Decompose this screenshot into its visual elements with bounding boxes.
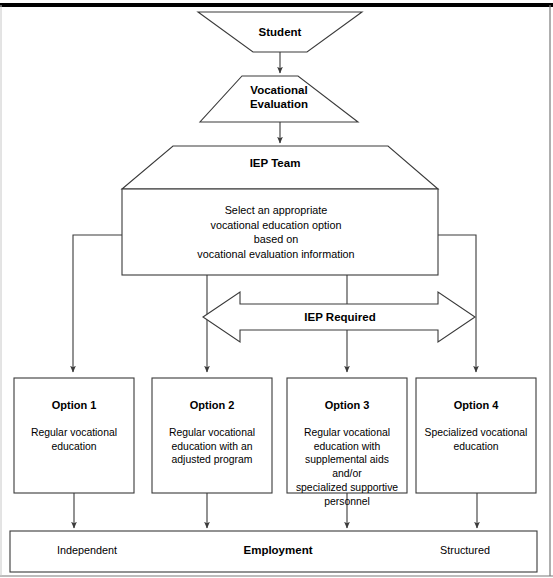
iep-team-header-shape (122, 146, 438, 189)
iep-required-arrow-shape (203, 292, 475, 342)
vocational-evaluation-shape (200, 76, 358, 122)
option-4-box (416, 378, 536, 493)
option-1-box (14, 378, 134, 493)
student-shape (198, 12, 362, 52)
option-3-box (287, 378, 407, 493)
option-2-box (152, 378, 272, 493)
flowchart-canvas: Student Vocational Evaluation IEP Team S… (0, 0, 553, 578)
iep-team-body-shape (122, 189, 438, 275)
employment-bar (10, 531, 537, 572)
flowchart-shapes (0, 0, 553, 578)
connector-iepteam-to-option1 (73, 235, 122, 372)
